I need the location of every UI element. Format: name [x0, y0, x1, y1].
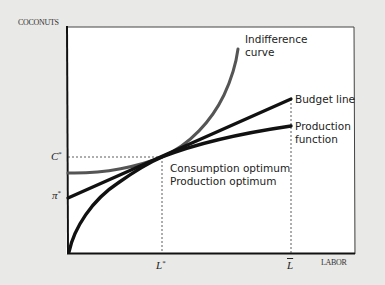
indifference-curve — [68, 49, 238, 173]
x-axis-title: LABOR — [321, 259, 347, 267]
production-label-line2: function — [295, 133, 351, 146]
l-star-label: L* — [156, 260, 166, 271]
economics-diagram: COCONUTS LABOR C* π* L* L Indifference c… — [0, 0, 385, 285]
indifference-curve-label: Indifference curve — [245, 33, 307, 59]
pi-star-sup: * — [58, 189, 62, 197]
production-function-curve — [69, 126, 291, 252]
indifference-label-line2: curve — [245, 46, 307, 59]
production-optimum-label: Production optimum — [170, 175, 290, 188]
l-bar-label: L — [287, 260, 293, 271]
c-star-sup: * — [58, 150, 62, 158]
y-axis — [67, 26, 68, 254]
l-star-sup: * — [162, 259, 166, 267]
indifference-label-line1: Indifference — [245, 33, 307, 46]
budget-line-label: Budget line — [295, 93, 355, 106]
production-label-line1: Production — [295, 120, 351, 133]
c-star-label: C* — [51, 151, 62, 162]
pi-star-label: π* — [52, 190, 61, 201]
production-function-label: Production function — [295, 120, 351, 146]
frame-right — [354, 27, 355, 254]
consumption-optimum-label: Consumption optimum — [170, 162, 290, 175]
y-axis-title: COCONUTS — [18, 19, 59, 27]
optimum-annotation: Consumption optimum Production optimum — [170, 162, 290, 188]
